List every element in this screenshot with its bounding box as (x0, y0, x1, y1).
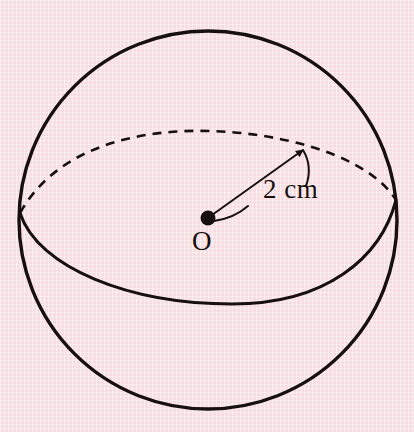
center-point-label: O (192, 228, 212, 255)
equator-back-arc-dashed (20, 131, 396, 213)
center-leader-curve (214, 206, 248, 221)
sphere-figure: O 2 cm (0, 0, 414, 432)
radius-label: 2 cm (263, 176, 318, 203)
sphere-drawing (0, 0, 414, 432)
center-point-dot (201, 211, 216, 226)
